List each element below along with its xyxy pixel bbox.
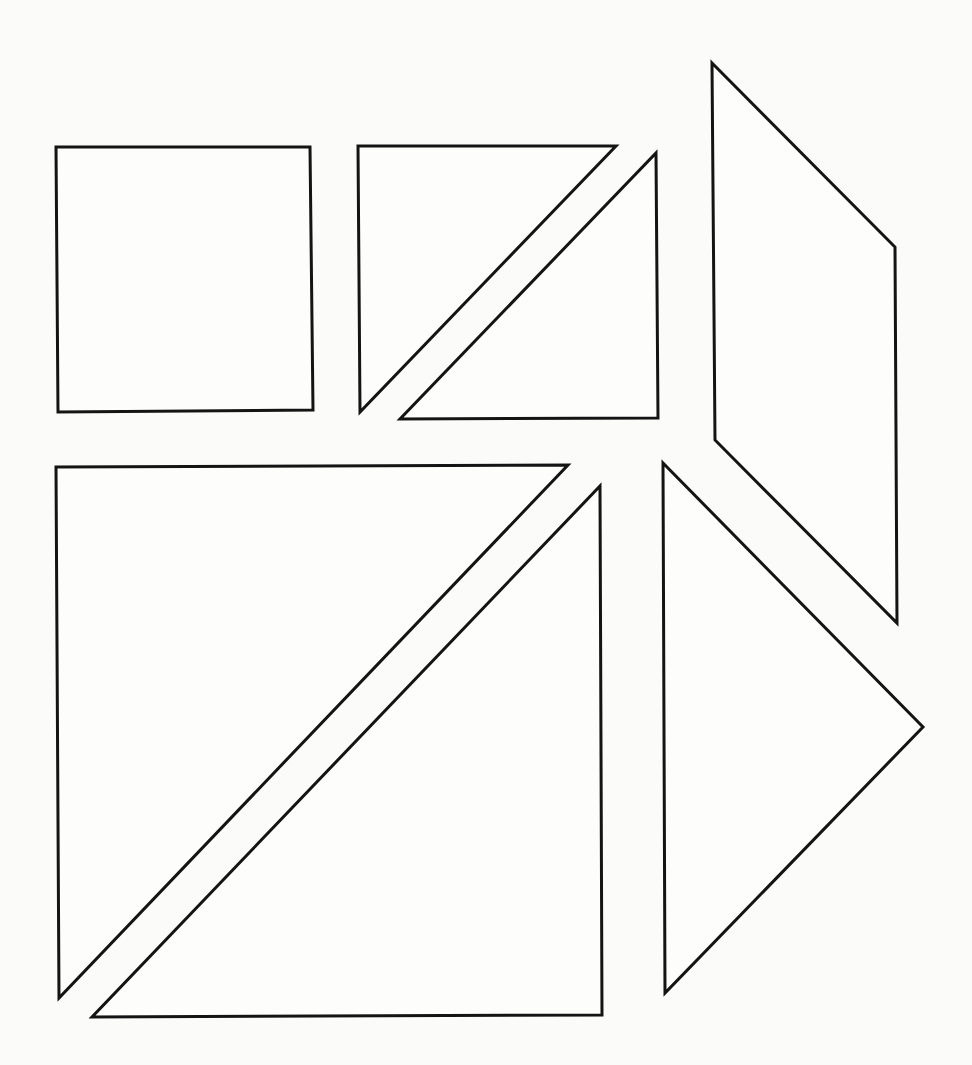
tangram-diagram	[0, 0, 972, 1065]
square-piece	[56, 147, 313, 412]
